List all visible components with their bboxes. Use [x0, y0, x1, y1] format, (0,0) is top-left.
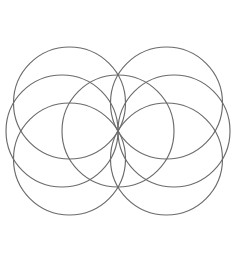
circles-group [6, 47, 230, 215]
image-canvas [0, 0, 234, 258]
seed-of-life-figure [0, 0, 234, 258]
